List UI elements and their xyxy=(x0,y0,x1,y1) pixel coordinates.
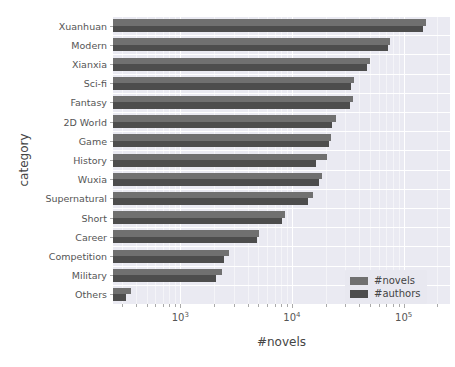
bar-authors-military xyxy=(113,275,216,282)
gridline-vertical xyxy=(404,16,405,304)
y-tick-mark xyxy=(110,26,113,27)
bar-authors-2d-world xyxy=(113,122,332,129)
legend-swatch-icon xyxy=(350,290,368,298)
y-tick-mark xyxy=(110,218,113,219)
y-tick-label-modern: Modern xyxy=(71,39,107,50)
legend-label: #novels xyxy=(374,275,415,286)
gridline-vertical xyxy=(399,16,400,304)
bar-authors-competition xyxy=(113,256,224,263)
figure-canvas: XuanhuanModernXianxiaSci-fiFantasy2D Wor… xyxy=(0,0,455,367)
chart-legend: #novels#authors xyxy=(345,270,427,304)
bar-authors-sci-fi xyxy=(113,83,351,90)
x-tick-mark-major xyxy=(292,304,293,308)
x-tick-mark-minor xyxy=(281,304,282,307)
gridline-horizontal xyxy=(113,170,450,171)
gridline-horizontal xyxy=(113,227,450,228)
gridline-vertical xyxy=(370,16,371,304)
y-tick-mark xyxy=(110,102,113,103)
x-tick-mark-minor xyxy=(169,304,170,307)
bar-authors-career xyxy=(113,237,257,244)
y-tick-mark xyxy=(110,160,113,161)
gridline-horizontal xyxy=(113,16,450,17)
y-tick-mark xyxy=(110,45,113,46)
bar-authors-short xyxy=(113,218,282,225)
y-tick-mark xyxy=(110,179,113,180)
x-tick-mark-minor xyxy=(275,304,276,307)
gridline-horizontal xyxy=(113,189,450,190)
plot-area xyxy=(113,16,450,304)
y-tick-mark xyxy=(110,141,113,142)
y-tick-label-competition: Competition xyxy=(49,251,107,262)
x-tick-label-1e3: 103 xyxy=(172,311,189,323)
bar-authors-wuxia xyxy=(113,179,319,186)
y-tick-label-wuxia: Wuxia xyxy=(78,174,107,185)
y-tick-label-history: History xyxy=(73,155,107,166)
bar-authors-game xyxy=(113,141,329,148)
y-tick-label-military: Military xyxy=(72,270,107,281)
x-tick-mark-minor xyxy=(399,304,400,307)
x-tick-mark-minor xyxy=(234,304,235,307)
x-tick-mark-minor xyxy=(379,304,380,307)
y-tick-mark xyxy=(110,122,113,123)
y-tick-label-others: Others xyxy=(75,289,107,300)
x-tick-mark-minor xyxy=(147,304,148,307)
gridline-vertical xyxy=(379,16,380,304)
y-tick-mark xyxy=(110,64,113,65)
x-tick-mark-minor xyxy=(267,304,268,307)
x-axis-label: #novels xyxy=(113,335,450,349)
bar-authors-history xyxy=(113,160,316,167)
y-axis-label: category xyxy=(17,133,31,186)
x-tick-mark-minor xyxy=(287,304,288,307)
bar-authors-others xyxy=(113,294,126,301)
gridline-horizontal xyxy=(113,246,450,247)
x-tick-mark-minor xyxy=(359,304,360,307)
gridline-horizontal xyxy=(113,93,450,94)
y-tick-label-career: Career xyxy=(75,231,107,242)
y-tick-label-2d-world: 2D World xyxy=(63,116,107,127)
y-tick-label-xianxia: Xianxia xyxy=(72,59,107,70)
x-tick-label-1e4: 104 xyxy=(283,311,300,323)
y-tick-label-xuanhuan: Xuanhuan xyxy=(59,20,107,31)
x-tick-mark-minor xyxy=(122,304,123,307)
bar-authors-xuanhuan xyxy=(113,26,423,33)
gridline-horizontal xyxy=(113,131,450,132)
gridline-horizontal xyxy=(113,74,450,75)
y-tick-label-sci-fi: Sci-fi xyxy=(84,78,107,89)
gridline-horizontal xyxy=(113,208,450,209)
y-tick-mark xyxy=(110,83,113,84)
gridline-horizontal xyxy=(113,150,450,151)
x-tick-mark-minor xyxy=(136,304,137,307)
x-tick-mark-minor xyxy=(175,304,176,307)
y-tick-mark xyxy=(110,275,113,276)
gridline-horizontal xyxy=(113,266,450,267)
x-tick-mark-minor xyxy=(370,304,371,307)
legend-item-novels: #novels xyxy=(350,274,421,287)
x-tick-mark-minor xyxy=(214,304,215,307)
gridline-horizontal xyxy=(113,54,450,55)
x-tick-mark-minor xyxy=(258,304,259,307)
bar-authors-supernatural xyxy=(113,198,308,205)
y-tick-mark xyxy=(110,294,113,295)
gridline-horizontal xyxy=(113,112,450,113)
x-tick-mark-minor xyxy=(155,304,156,307)
x-tick-mark-minor xyxy=(393,304,394,307)
legend-item-authors: #authors xyxy=(350,287,421,300)
x-tick-mark-minor xyxy=(437,304,438,307)
x-tick-mark-major xyxy=(404,304,405,308)
gridline-vertical xyxy=(437,16,438,304)
bar-authors-xianxia xyxy=(113,64,367,71)
legend-label: #authors xyxy=(374,288,421,299)
y-tick-mark xyxy=(110,256,113,257)
gridline-vertical xyxy=(386,16,387,304)
x-tick-mark-minor xyxy=(326,304,327,307)
bar-authors-fantasy xyxy=(113,102,350,109)
y-tick-label-fantasy: Fantasy xyxy=(70,97,107,108)
y-tick-mark xyxy=(110,198,113,199)
x-tick-mark-minor xyxy=(248,304,249,307)
gridline-horizontal xyxy=(113,35,450,36)
gridline-vertical xyxy=(393,16,394,304)
x-tick-mark-minor xyxy=(386,304,387,307)
x-tick-mark-minor xyxy=(163,304,164,307)
x-tick-mark-major xyxy=(180,304,181,308)
y-tick-mark xyxy=(110,237,113,238)
